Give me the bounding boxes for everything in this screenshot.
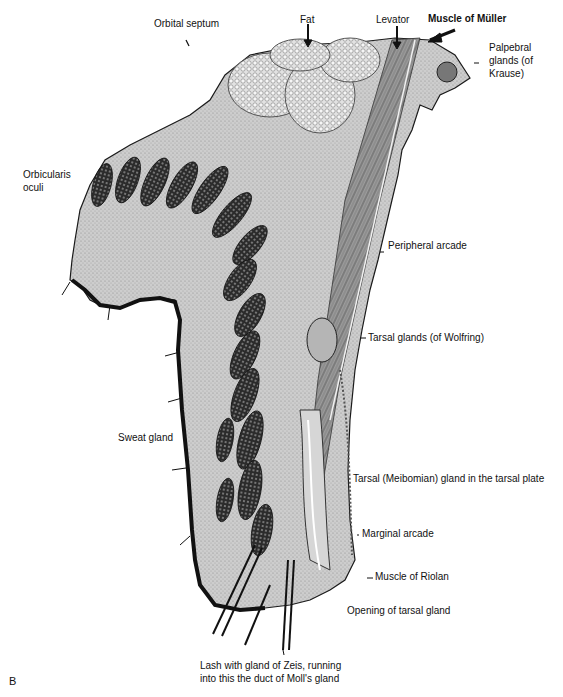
label-orbicularis-oculi: Orbicularis oculi <box>23 168 83 194</box>
skin-hairs <box>62 282 190 545</box>
label-marginal-arcade: Marginal arcade <box>362 528 434 540</box>
label-lash-zeis-moll: Lash with gland of Zeis, running into th… <box>200 659 350 685</box>
label-tarsal-meibomian: Tarsal (Meibomian) gland in the tarsal p… <box>353 473 544 485</box>
label-muscle-of-muller: Muscle of Müller <box>428 13 506 25</box>
label-muscle-of-riolan: Muscle of Riolan <box>375 571 449 583</box>
krause-gland <box>437 62 457 82</box>
eyelid-section-drawing <box>0 0 563 697</box>
label-tarsal-glands-wolfring: Tarsal glands (of Wolfring) <box>368 332 484 344</box>
label-levator: Levator <box>376 14 409 26</box>
label-opening-tarsal-gland: Opening of tarsal gland <box>347 605 450 617</box>
label-palpebral-glands: Palpebral glands (of Krause) <box>489 41 555 80</box>
panel-letter: B <box>9 675 16 687</box>
label-peripheral-arcade: Peripheral arcade <box>388 240 467 252</box>
label-fat: Fat <box>300 14 314 26</box>
label-sweat-gland: Sweat gland <box>118 432 173 444</box>
wolfring-gland <box>307 318 337 362</box>
label-orbital-septum: Orbital septum <box>154 18 219 30</box>
